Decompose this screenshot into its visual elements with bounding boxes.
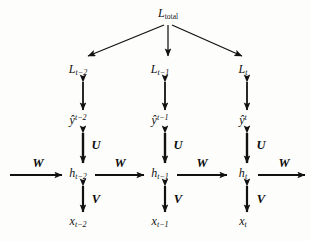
- node-input-t: xt: [239, 215, 247, 229]
- node-loss-t-minus-2: Lt−2: [69, 63, 87, 77]
- node-input-t-minus-1: xt−1: [151, 215, 168, 229]
- weight-label-w-4: W: [278, 157, 289, 170]
- loss-subscript: t−1: [158, 68, 170, 77]
- weight-label-u-2: U: [173, 139, 182, 152]
- hidden-subscript: t: [245, 172, 247, 181]
- weight-label-v-1: V: [92, 193, 100, 206]
- node-loss-t-minus-1: Lt−1: [151, 63, 169, 77]
- prediction-superscript: t−1: [157, 113, 169, 122]
- prediction-superscript: t−2: [75, 113, 87, 122]
- input-subscript: t: [245, 220, 247, 229]
- weight-label-u-3: U: [256, 139, 265, 152]
- rnn-bptt-diagram: Ltotal Lt−2 Lt−1 Lt ŷt−2 ŷt−1 ŷt ht−2…: [0, 0, 310, 241]
- prediction-hidden-edges: [83, 133, 247, 163]
- loss-prediction-edges: [83, 82, 247, 110]
- total-loss-fanout: [88, 25, 242, 56]
- input-subscript: t−1: [157, 220, 169, 229]
- loss-subscript: t−2: [76, 68, 88, 77]
- node-total-loss: Ltotal: [158, 7, 178, 20]
- edge-total-to-loss-t-2: [88, 25, 164, 56]
- loss-symbol: L: [238, 62, 245, 76]
- node-prediction-t: ŷt: [239, 114, 247, 126]
- loss-subscript: t: [245, 68, 247, 77]
- total-loss-subscript: total: [165, 12, 178, 21]
- weight-label-w-2: W: [114, 157, 125, 170]
- loss-symbol: L: [69, 62, 76, 76]
- prediction-superscript: t: [245, 113, 247, 122]
- weight-label-w-3: W: [196, 157, 207, 170]
- node-prediction-t-minus-2: ŷt−2: [69, 114, 86, 126]
- weight-label-u-1: U: [91, 139, 100, 152]
- hidden-subscript: t−1: [157, 172, 169, 181]
- node-hidden-t: ht: [239, 167, 247, 181]
- node-loss-t: Lt: [238, 63, 247, 77]
- total-loss-symbol: L: [158, 6, 165, 20]
- node-prediction-t-minus-1: ŷt−1: [151, 114, 168, 126]
- edge-total-to-loss-t: [172, 25, 242, 56]
- loss-symbol: L: [151, 62, 158, 76]
- node-input-t-minus-2: xt−2: [69, 215, 86, 229]
- weight-label-v-3: V: [257, 193, 265, 206]
- input-subscript: t−2: [75, 220, 87, 229]
- node-hidden-t-minus-1: ht−1: [151, 167, 169, 181]
- hidden-subscript: t−2: [75, 172, 87, 181]
- node-hidden-t-minus-2: ht−2: [69, 167, 87, 181]
- weight-label-w-1: W: [32, 157, 43, 170]
- weight-label-v-2: V: [174, 193, 182, 206]
- hidden-input-edges: [83, 186, 247, 212]
